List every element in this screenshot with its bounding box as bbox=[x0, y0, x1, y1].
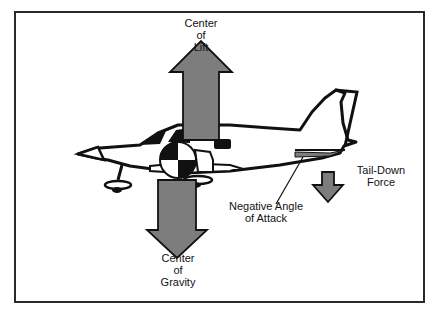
negative-angle-of-attack-label: Negative Angle of Attack bbox=[218, 200, 314, 224]
nose-gear-strut bbox=[118, 165, 122, 180]
center-of-gravity-icon bbox=[160, 142, 196, 178]
label-line: of bbox=[176, 29, 226, 41]
center-of-lift-label: Center of Lift bbox=[176, 17, 226, 53]
label-line: of bbox=[148, 264, 208, 276]
label-line: Center bbox=[148, 252, 208, 264]
tail-down-force-label: Tail-Down Force bbox=[350, 164, 412, 188]
label-line: Tail-Down bbox=[350, 164, 412, 176]
label-line: Negative Angle bbox=[218, 200, 314, 212]
spinner-icon bbox=[78, 147, 104, 160]
gravity-arrow-icon bbox=[147, 180, 207, 258]
label-line: Lift bbox=[176, 41, 226, 53]
label-line: of Attack bbox=[218, 212, 314, 224]
center-of-gravity-label: Center of Gravity bbox=[148, 252, 208, 288]
label-line: Force bbox=[350, 176, 412, 188]
label-line: Gravity bbox=[148, 276, 208, 288]
label-line: Center bbox=[176, 17, 226, 29]
cowling-icon bbox=[195, 150, 213, 172]
tail-down-force-arrow-icon bbox=[313, 172, 343, 202]
nose-wheel-icon bbox=[112, 187, 122, 193]
